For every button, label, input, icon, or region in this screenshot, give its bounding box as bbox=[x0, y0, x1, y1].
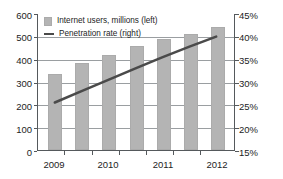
left-axis-tick-400: 400 bbox=[0, 56, 32, 66]
x-tick-mark bbox=[92, 151, 93, 155]
bar-2009-h2 bbox=[75, 63, 89, 150]
x-axis-label-2011: 2011 bbox=[153, 159, 173, 170]
left-axis-tick-600: 600 bbox=[0, 11, 32, 21]
x-tick-mark bbox=[146, 151, 147, 155]
x-axis-label-2012: 2012 bbox=[206, 159, 227, 170]
right-tick-mark bbox=[235, 151, 239, 152]
x-tick-mark bbox=[64, 151, 65, 155]
bar-2009-h1 bbox=[48, 74, 62, 151]
right-axis-tick-15: 15% bbox=[239, 148, 283, 158]
bar-2011-h1 bbox=[157, 39, 171, 150]
right-tick-mark bbox=[235, 128, 239, 129]
right-tick-mark bbox=[235, 14, 239, 15]
x-tick-mark bbox=[119, 151, 120, 155]
right-axis-tick-30: 30% bbox=[239, 79, 283, 89]
right-tick-mark bbox=[235, 105, 239, 106]
legend-item-internet-users: Internet users, millions (left) bbox=[44, 16, 158, 26]
legend-item-penetration-rate: Penetration rate (right) bbox=[44, 29, 158, 39]
right-tick-mark bbox=[235, 83, 239, 84]
left-axis-tick-100: 100 bbox=[0, 125, 32, 135]
chart-legend: Internet users, millions (left) Penetrat… bbox=[44, 16, 158, 39]
bar-2010-h2 bbox=[130, 46, 144, 150]
bar-swatch-icon bbox=[44, 17, 52, 26]
legend-label-penetration-rate: Penetration rate (right) bbox=[59, 30, 141, 38]
left-axis-tick-0: 0 bbox=[0, 148, 32, 158]
right-axis-tick-40: 40% bbox=[239, 33, 283, 43]
legend-label-internet-users: Internet users, millions (left) bbox=[57, 17, 158, 25]
left-axis-tick-500: 500 bbox=[0, 33, 32, 43]
left-axis-tick-300: 300 bbox=[0, 79, 32, 89]
x-axis-label-2010: 2010 bbox=[97, 159, 118, 170]
bar-2012-h1 bbox=[211, 27, 225, 150]
right-axis-tick-20: 20% bbox=[239, 125, 283, 135]
right-axis-tick-35: 35% bbox=[239, 56, 283, 66]
left-tick-mark bbox=[34, 151, 38, 152]
right-tick-mark bbox=[235, 37, 239, 38]
right-axis-tick-45: 45% bbox=[239, 11, 283, 21]
x-tick-mark bbox=[200, 151, 201, 155]
left-axis-tick-200: 200 bbox=[0, 102, 32, 112]
line-swatch-icon bbox=[44, 33, 54, 35]
right-tick-mark bbox=[235, 60, 239, 61]
bar-2010-h1 bbox=[102, 55, 116, 150]
x-tick-mark bbox=[173, 151, 174, 155]
bar-2011-h2 bbox=[184, 34, 198, 151]
chart-container: 600 500 400 300 200 100 0 45% 40% 35% 30… bbox=[0, 0, 283, 179]
right-axis-tick-25: 25% bbox=[239, 102, 283, 112]
x-axis-label-2009: 2009 bbox=[43, 159, 64, 170]
